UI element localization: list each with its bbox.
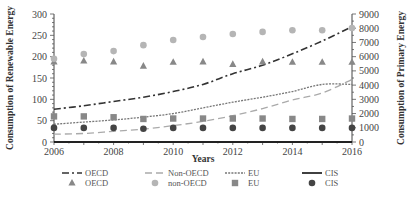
- x-tick-label: 2006: [44, 146, 64, 157]
- point-cis: [140, 125, 147, 132]
- y2-tick-label: 9000: [359, 9, 379, 20]
- y2-axis-title: Consumption of Primary Energy: [396, 11, 406, 145]
- legend-label: non-OECD: [168, 178, 207, 188]
- y2-tick-label: 1000: [359, 122, 379, 133]
- point-non-oecd: [349, 25, 356, 32]
- point-cis: [259, 125, 266, 132]
- y2-tick-label: 2000: [359, 108, 379, 119]
- point-non-oecd: [51, 56, 58, 63]
- point-eu: [230, 115, 236, 121]
- point-cis: [349, 125, 356, 132]
- point-oecd: [259, 58, 266, 65]
- y2-tick-label: 4000: [359, 80, 379, 91]
- x-tick-label: 2008: [104, 146, 124, 157]
- point-non-oecd: [259, 29, 266, 36]
- point-oecd: [80, 57, 87, 64]
- x-tick-label: 2012: [223, 146, 243, 157]
- x-tick-label: 2014: [282, 146, 302, 157]
- point-non-oecd: [140, 42, 147, 49]
- chart: 0501001502002503000100020003000400050006…: [0, 0, 411, 203]
- series-markers: [50, 25, 355, 132]
- legend-label: CIS: [325, 168, 339, 178]
- point-non-oecd: [170, 37, 177, 44]
- y-axis-title: Consumption of Renewable Energy: [5, 6, 15, 150]
- point-eu: [349, 115, 355, 121]
- x-tick-label: 2016: [342, 146, 362, 157]
- point-non-oecd: [200, 34, 207, 41]
- point-cis: [319, 125, 326, 132]
- y-tick-label: 300: [32, 9, 47, 20]
- legend-marker-swatch: [309, 180, 316, 187]
- y-tick-label: 200: [32, 51, 47, 62]
- y-tick-label: 100: [32, 94, 47, 105]
- point-cis: [81, 125, 88, 132]
- point-oecd: [170, 58, 177, 65]
- point-non-oecd: [81, 51, 88, 58]
- point-non-oecd: [319, 27, 326, 34]
- point-eu: [200, 115, 206, 121]
- point-oecd: [140, 62, 147, 69]
- point-non-oecd: [289, 27, 296, 34]
- x-axis-title: Years: [192, 154, 215, 164]
- point-oecd: [348, 58, 355, 65]
- point-eu: [51, 113, 57, 119]
- point-eu: [170, 115, 176, 121]
- point-oecd: [229, 60, 236, 67]
- y2-tick-label: 8000: [359, 23, 379, 34]
- point-oecd: [289, 58, 296, 65]
- point-cis: [51, 125, 58, 132]
- point-eu: [319, 116, 325, 122]
- point-eu: [140, 116, 146, 122]
- axes: 0501001502002503000100020003000400050006…: [32, 9, 379, 158]
- legend-label: OECD: [85, 168, 108, 178]
- point-oecd: [319, 58, 326, 65]
- point-oecd: [110, 58, 117, 65]
- point-non-oecd: [230, 31, 237, 38]
- legend-marker-swatch: [232, 180, 238, 186]
- point-cis: [110, 125, 117, 132]
- y2-tick-label: 6000: [359, 51, 379, 62]
- y2-tick-label: 7000: [359, 37, 379, 48]
- legend-marker-swatch: [68, 179, 75, 186]
- legend-label: EU: [248, 168, 259, 178]
- y-tick-label: 150: [32, 73, 47, 84]
- x-tick-label: 2010: [163, 146, 183, 157]
- point-non-oecd: [110, 48, 117, 55]
- point-eu: [110, 114, 116, 120]
- legend-marker-swatch: [152, 180, 159, 187]
- legend-label: CIS: [325, 178, 339, 188]
- point-cis: [200, 125, 207, 132]
- point-cis: [230, 125, 237, 132]
- legend: OECDNon-OECDEUCISOECDnon-OECDEUCIS: [62, 168, 339, 188]
- legend-label: OECD: [85, 178, 108, 188]
- point-eu: [289, 116, 295, 122]
- y-tick-label: 250: [32, 30, 47, 41]
- y2-tick-label: 5000: [359, 65, 379, 76]
- y2-tick-label: 3000: [359, 94, 379, 105]
- legend-label: EU: [248, 178, 259, 188]
- point-cis: [289, 125, 296, 132]
- point-eu: [81, 113, 87, 119]
- point-cis: [170, 125, 177, 132]
- point-eu: [259, 115, 265, 121]
- legend-label: Non-OECD: [168, 168, 209, 178]
- point-oecd: [199, 58, 206, 65]
- y-tick-label: 50: [37, 115, 47, 126]
